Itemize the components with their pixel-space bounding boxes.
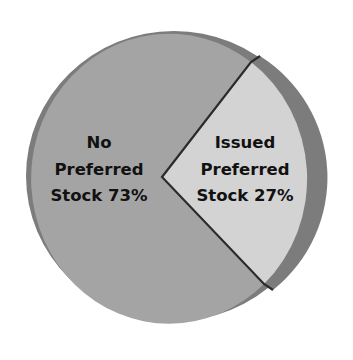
label-line: Issued (215, 133, 276, 152)
label-line: Preferred (54, 160, 143, 179)
label-line: Stock 73% (50, 186, 148, 205)
label-line: Preferred (200, 160, 289, 179)
label-line: No (86, 133, 111, 152)
label-line: Stock 27% (196, 186, 294, 205)
pie-chart: No Preferred Stock 73% Issued Preferred … (0, 0, 353, 360)
